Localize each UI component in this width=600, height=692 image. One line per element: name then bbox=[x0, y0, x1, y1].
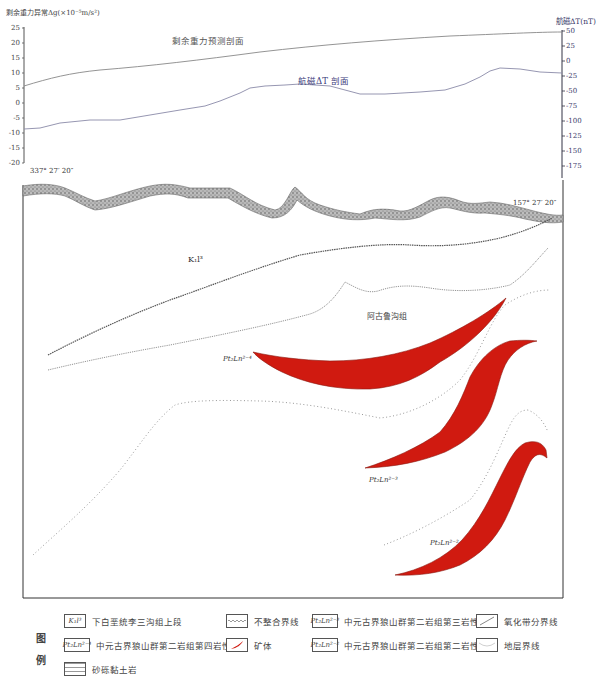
legend-item-gravel-clay: 砂砾黏土岩 bbox=[64, 662, 137, 676]
legend-label: 砂砾黏土岩 bbox=[92, 663, 137, 675]
oxidation-boundary-symbol-icon bbox=[476, 614, 498, 628]
legend-title-1: 图 bbox=[36, 630, 46, 645]
right-axis-ticks: 50 25 0 -25 -50 -75 -100 -125 -150 -175 bbox=[566, 27, 582, 170]
label-k1l3: K₁l³ bbox=[188, 255, 203, 264]
legend-label: 不整合界线 bbox=[254, 615, 299, 627]
legend-label: 矿体 bbox=[254, 639, 272, 651]
legend: 图 例 K₁l³ 下白垩统李三沟组上段 Pt₂Ln²⁻⁴ 中元古界狼山群第二岩组… bbox=[0, 600, 600, 692]
legend-item-pt2ln2-2: Pt₂Ln²⁻² 中元古界狼山群第二岩组第二岩性段 bbox=[312, 638, 488, 652]
legend-label: 地层界线 bbox=[504, 639, 540, 651]
svg-text:-75: -75 bbox=[566, 102, 577, 110]
unconformity-symbol-icon bbox=[226, 614, 248, 628]
svg-text:5: 5 bbox=[16, 84, 20, 92]
svg-text:50: 50 bbox=[566, 27, 575, 35]
legend-item-pt2ln2-4: Pt₂Ln²⁻⁴ 中元古界狼山群第二岩组第四岩性段 bbox=[64, 638, 240, 652]
svg-text:-5: -5 bbox=[13, 114, 20, 122]
magnetic-curve-label: 航磁ΔT 剖面 bbox=[298, 76, 349, 86]
legend-label: 中元古界狼山群第二岩组第二岩性段 bbox=[344, 639, 488, 651]
left-axis-ticks: 25 20 15 10 5 0 -5 -10 -15 -20 bbox=[9, 24, 20, 167]
legend-item-pt2ln2-3: Pt₂Ln²⁻³ 中元古界狼山群第二岩组第三岩性段 bbox=[312, 614, 488, 628]
svg-text:-100: -100 bbox=[566, 117, 582, 125]
svg-text:25: 25 bbox=[566, 42, 575, 50]
geophysical-chart: 25 20 15 10 5 0 -5 -10 -15 -20 剩余重力异常Δg(… bbox=[6, 8, 596, 178]
svg-text:-175: -175 bbox=[566, 162, 582, 170]
left-axis-label: 剩余重力异常Δg(×10⁻⁵m/s²) bbox=[6, 8, 100, 17]
legend-symbol-pt2ln2-2: Pt₂Ln²⁻² bbox=[312, 638, 338, 652]
label-ore-4: Pt₂Ln²⁻⁴ bbox=[222, 355, 252, 363]
label-ore-2: Pt₂Ln²⁻² bbox=[429, 539, 459, 547]
legend-label: 氧化带分界线 bbox=[504, 615, 558, 627]
svg-text:-15: -15 bbox=[9, 144, 20, 152]
legend-title-2: 例 bbox=[36, 652, 46, 667]
gravity-curve bbox=[24, 32, 562, 86]
svg-text:-10: -10 bbox=[9, 129, 20, 137]
ore-body-2 bbox=[395, 442, 547, 576]
legend-item-k1l3: K₁l³ 下白垩统李三沟组上段 bbox=[64, 614, 182, 628]
gravel-clay-symbol-icon bbox=[64, 662, 86, 676]
svg-text:15: 15 bbox=[11, 54, 20, 62]
label-agulugou: 阿古鲁沟组 bbox=[367, 311, 407, 321]
svg-text:0: 0 bbox=[16, 99, 20, 107]
stratigraphic-boundary-symbol-icon bbox=[476, 638, 498, 652]
legend-label: 中元古界狼山群第二岩组第三岩性段 bbox=[344, 615, 488, 627]
azimuth-right: 157° 27′ 20″ bbox=[513, 199, 557, 207]
svg-text:-25: -25 bbox=[566, 72, 577, 80]
ore-body-symbol-icon bbox=[226, 638, 248, 652]
svg-text:0: 0 bbox=[566, 57, 570, 65]
legend-symbol-pt2ln2-3: Pt₂Ln²⁻³ bbox=[312, 614, 338, 628]
legend-item-unconformity: 不整合界线 bbox=[226, 614, 299, 628]
svg-text:10: 10 bbox=[11, 69, 20, 77]
legend-label: 中元古界狼山群第二岩组第四岩性段 bbox=[96, 639, 240, 651]
surface-gravel-layer bbox=[23, 184, 563, 223]
legend-label: 下白垩统李三沟组上段 bbox=[92, 615, 182, 627]
svg-text:-150: -150 bbox=[566, 147, 582, 155]
legend-item-ore-body: 矿体 bbox=[226, 638, 272, 652]
svg-text:-50: -50 bbox=[566, 87, 577, 95]
svg-text:25: 25 bbox=[11, 24, 20, 32]
legend-symbol-pt2ln2-4: Pt₂Ln²⁻⁴ bbox=[64, 638, 90, 652]
right-axis-label: 航磁ΔT(nT) bbox=[556, 16, 596, 26]
svg-text:-125: -125 bbox=[566, 132, 582, 140]
cross-section: K₁l³ 阿古鲁沟组 Pt₂Ln²⁻⁴ Pt₂Ln²⁻³ Pt₂Ln²⁻² bbox=[23, 180, 563, 598]
legend-item-oxidation-boundary: 氧化带分界线 bbox=[476, 614, 558, 628]
gravity-curve-label: 剩余重力预测剖面 bbox=[172, 36, 244, 46]
azimuth-left: 337° 27′ 20″ bbox=[30, 167, 74, 175]
svg-text:-20: -20 bbox=[9, 159, 20, 167]
legend-item-stratigraphic-boundary: 地层界线 bbox=[476, 638, 540, 652]
magnetic-curve bbox=[24, 68, 562, 129]
stratigraphic-boundary-upper bbox=[48, 248, 548, 370]
profile-figure: 25 20 15 10 5 0 -5 -10 -15 -20 剩余重力异常Δg(… bbox=[0, 0, 600, 600]
legend-symbol-k1l3: K₁l³ bbox=[64, 614, 86, 628]
label-ore-3: Pt₂Ln²⁻³ bbox=[368, 476, 398, 484]
svg-text:20: 20 bbox=[11, 39, 20, 47]
